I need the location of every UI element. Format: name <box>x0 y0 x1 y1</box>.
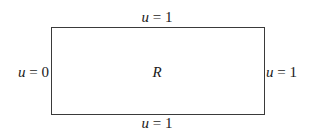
top-eq: = <box>149 9 165 25</box>
top-var: u <box>142 9 150 25</box>
top-boundary-label: u = 1 <box>0 9 314 25</box>
bottom-eq: = <box>149 115 165 131</box>
region-label: R <box>0 64 314 80</box>
bottom-boundary-label: u = 1 <box>0 115 314 131</box>
top-value: 1 <box>165 9 173 25</box>
bottom-var: u <box>142 115 150 131</box>
bottom-value: 1 <box>165 115 173 131</box>
